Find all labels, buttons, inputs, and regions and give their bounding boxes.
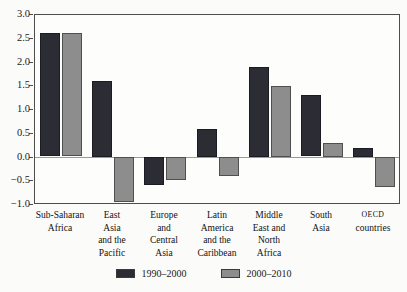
x-category-label-line: OECD — [340, 209, 406, 222]
y-axis-tick-label: 3.0 — [0, 8, 30, 20]
x-category-label-line: Africa — [236, 247, 302, 260]
bar-oecd-countries-2000-2010 — [375, 157, 395, 187]
x-category-label-line: North — [236, 234, 302, 247]
y-axis-tick-label: −1.0 — [0, 198, 30, 210]
bar-europe-and-central-asia-1990-2000 — [144, 157, 164, 185]
legend-label-1990-2000: 1990–2000 — [142, 268, 187, 279]
legend-item-2000-2010: 2000–2010 — [221, 268, 292, 279]
legend-swatch-1990-2000 — [116, 269, 135, 278]
y-axis-tick-label: 1.5 — [0, 79, 30, 91]
legend-swatch-2000-2010 — [221, 269, 240, 278]
bar-south-asia-1990-2000 — [301, 95, 321, 156]
y-axis-tick-label: 2.0 — [0, 56, 30, 68]
bar-chart: 3.02.52.01.51.00.50.0−0.5−1.0 Sub-Sahara… — [0, 0, 407, 292]
bar-sub-saharan-africa-1990-2000 — [40, 33, 60, 156]
plot-area — [34, 14, 400, 204]
bar-south-asia-2000-2010 — [323, 143, 343, 157]
y-axis-tick-label: 1.0 — [0, 103, 30, 115]
y-axis-tick-label: 2.5 — [0, 32, 30, 44]
bar-middle-east-and-north-africa-1990-2000 — [249, 67, 269, 157]
y-axis-tick-label: −0.5 — [0, 174, 30, 186]
legend-label-2000-2010: 2000–2010 — [247, 268, 292, 279]
bar-east-asia-and-the-pacific-1990-2000 — [92, 81, 112, 157]
bar-europe-and-central-asia-2000-2010 — [166, 157, 186, 180]
y-axis-tick-label: 0.5 — [0, 127, 30, 139]
bar-oecd-countries-1990-2000 — [353, 148, 373, 157]
zero-gridline — [35, 157, 399, 158]
bar-latin-america-and-the-caribbean-1990-2000 — [197, 129, 217, 157]
bar-east-asia-and-the-pacific-2000-2010 — [114, 157, 134, 202]
bar-middle-east-and-north-africa-2000-2010 — [271, 86, 291, 157]
legend: 1990–2000 2000–2010 — [0, 268, 407, 279]
x-category-label: OECDcountries — [340, 209, 406, 234]
x-category-label-line: countries — [340, 222, 406, 235]
y-axis-tick-label: 0.0 — [0, 151, 30, 163]
bar-sub-saharan-africa-2000-2010 — [62, 33, 82, 156]
bar-latin-america-and-the-caribbean-2000-2010 — [219, 157, 239, 176]
legend-item-1990-2000: 1990–2000 — [116, 268, 187, 279]
